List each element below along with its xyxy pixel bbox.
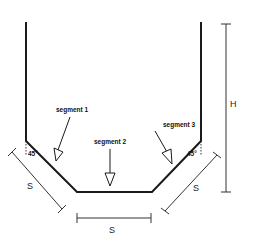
segment-2-label: segment 2	[94, 138, 127, 146]
segment-1-label: segment 1	[56, 106, 89, 114]
segment-3-arrow-icon	[155, 131, 172, 164]
hopper-outline	[26, 22, 201, 192]
dimension-h-label: H	[230, 99, 237, 109]
hopper-diagram: 45° 45° segment 1 segment 2 segment 3 S …	[0, 0, 256, 244]
dimension-s-left-label: S	[27, 181, 33, 191]
angle-label-left: 45°	[28, 150, 38, 157]
segment-3-label: segment 3	[163, 121, 196, 129]
segment-1-arrow-icon	[54, 117, 70, 161]
dimension-s-bottom-label: S	[109, 225, 115, 235]
segment-2-arrow-icon	[105, 149, 115, 186]
dimension-s-bottom	[77, 213, 151, 223]
angle-label-right: 45°	[187, 150, 197, 157]
dimension-s-right-label: S	[193, 183, 199, 193]
